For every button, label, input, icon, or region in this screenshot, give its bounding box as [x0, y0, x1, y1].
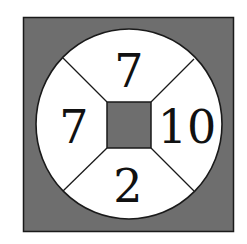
segment-top-number: 7	[114, 44, 143, 98]
number-wheel-diagram: 7 7 10 2	[0, 0, 247, 244]
segment-bottom-number: 2	[113, 159, 142, 213]
segment-left-number: 7	[59, 100, 88, 154]
segment-right-number: 10	[158, 100, 217, 154]
center-square	[107, 102, 151, 148]
